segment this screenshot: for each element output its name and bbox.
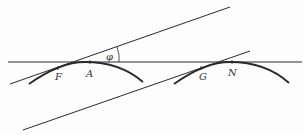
label-g: G bbox=[199, 71, 207, 82]
label-n: N bbox=[227, 67, 238, 78]
label-phi: φ bbox=[106, 51, 113, 62]
label-a: A bbox=[85, 68, 93, 79]
diagram-canvas: F A φ G N bbox=[0, 0, 304, 135]
label-f: F bbox=[54, 71, 63, 82]
angle-arc bbox=[117, 47, 119, 62]
upper-slanted-line bbox=[10, 7, 230, 84]
tangent-diagram: F A φ G N bbox=[0, 0, 304, 135]
